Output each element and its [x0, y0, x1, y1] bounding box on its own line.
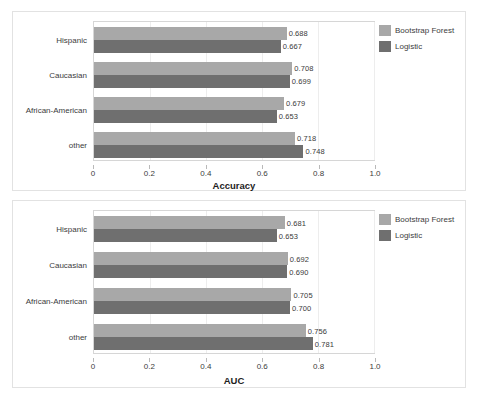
legend-swatch-logistic: [379, 230, 391, 241]
bar-value-label: 0.681: [287, 218, 306, 227]
bar-logistic[interactable]: 0.690: [94, 265, 287, 278]
bar-bootstrap-forest[interactable]: 0.688: [94, 27, 287, 40]
y-axis-label: African-American: [26, 297, 87, 306]
bar-groups-auc: 0.6810.6530.6920.6900.7050.7000.7560.781: [94, 211, 374, 353]
y-axis-label: Caucasian: [49, 70, 87, 79]
x-axis-tick-label: 1.0: [369, 362, 380, 371]
legend-item-bootstrap-forest: Bootstrap Forest: [379, 213, 471, 225]
x-axis-tick-label: 0: [91, 362, 95, 371]
y-axis-label: Hispanic: [56, 35, 87, 44]
bar-value-label: 0.653: [279, 231, 298, 240]
y-axis-label: Hispanic: [56, 225, 87, 234]
bar-group: 0.7050.700: [94, 288, 374, 314]
bar-group: 0.7560.781: [94, 324, 374, 350]
bar-group: 0.7180.748: [94, 132, 374, 158]
bar-value-label: 0.667: [283, 42, 302, 51]
figure-canvas: HispanicCaucasianAfrican-Americanother 0…: [0, 0, 478, 398]
x-axis-tick-label: 0.6: [257, 169, 268, 178]
bar-value-label: 0.679: [286, 99, 305, 108]
x-axis-tick-label: 0.8: [313, 169, 324, 178]
gridline: [374, 211, 375, 353]
bar-value-label: 0.756: [308, 326, 327, 335]
bar-value-label: 0.690: [289, 267, 308, 276]
plot-frame-auc: 0.6810.6530.6920.6900.7050.7000.7560.781: [93, 210, 375, 354]
bar-bootstrap-forest[interactable]: 0.705: [94, 288, 291, 301]
bar-value-label: 0.708: [294, 64, 313, 73]
bar-group: 0.6790.653: [94, 97, 374, 123]
x-axis-tick-label: 0.4: [200, 169, 211, 178]
x-axis-tick-label: 0.2: [144, 362, 155, 371]
bar-value-label: 0.688: [289, 29, 308, 38]
legend-label-logistic: Logistic: [395, 231, 422, 240]
plot-frame-accuracy: 0.6880.6670.7080.6990.6790.6530.7180.748: [93, 21, 375, 161]
x-axis-tick-label: 0.4: [200, 362, 211, 371]
bar-logistic[interactable]: 0.653: [94, 110, 277, 123]
bar-logistic[interactable]: 0.667: [94, 40, 281, 53]
bar-bootstrap-forest[interactable]: 0.708: [94, 62, 292, 75]
legend-label-bootstrap-forest: Bootstrap Forest: [395, 215, 454, 224]
bar-logistic[interactable]: 0.781: [94, 337, 313, 350]
plot-wrap-accuracy: HispanicCaucasianAfrican-Americanother 0…: [13, 12, 465, 190]
bar-value-label: 0.700: [292, 303, 311, 312]
bar-logistic[interactable]: 0.653: [94, 229, 277, 242]
bar-bootstrap-forest[interactable]: 0.679: [94, 97, 284, 110]
legend-swatch-logistic: [379, 41, 391, 52]
legend-label-bootstrap-forest: Bootstrap Forest: [395, 26, 454, 35]
y-axis-label: other: [69, 333, 87, 342]
bar-logistic[interactable]: 0.748: [94, 145, 303, 158]
bar-value-label: 0.692: [290, 254, 309, 263]
bar-bootstrap-forest[interactable]: 0.756: [94, 324, 306, 337]
plot-wrap-auc: HispanicCaucasianAfrican-Americanother 0…: [13, 201, 465, 387]
x-axis-tick-label: 0: [91, 169, 95, 178]
bar-value-label: 0.705: [293, 290, 312, 299]
legend-auc: Bootstrap Forest Logistic: [379, 213, 471, 245]
legend-item-logistic: Logistic: [379, 229, 471, 241]
bar-groups-accuracy: 0.6880.6670.7080.6990.6790.6530.7180.748: [94, 22, 374, 160]
y-axis-label: Caucasian: [49, 261, 87, 270]
bar-value-label: 0.748: [305, 147, 324, 156]
bar-group: 0.7080.699: [94, 62, 374, 88]
bar-logistic[interactable]: 0.699: [94, 75, 290, 88]
y-axis-label: African-American: [26, 105, 87, 114]
x-axis-tick-label: 0.6: [257, 362, 268, 371]
x-axis-auc: 00.20.40.60.81.0: [93, 355, 375, 375]
legend-item-logistic: Logistic: [379, 40, 471, 52]
bar-bootstrap-forest[interactable]: 0.718: [94, 132, 295, 145]
legend-item-bootstrap-forest: Bootstrap Forest: [379, 24, 471, 36]
bar-group: 0.6810.653: [94, 216, 374, 242]
x-axis-accuracy: 00.20.40.60.81.0: [93, 162, 375, 182]
bar-group: 0.6880.667: [94, 27, 374, 53]
gridline: [374, 22, 375, 160]
bar-bootstrap-forest[interactable]: 0.681: [94, 216, 285, 229]
bar-value-label: 0.653: [279, 112, 298, 121]
bar-logistic[interactable]: 0.700: [94, 301, 290, 314]
x-axis-tick-label: 1.0: [369, 169, 380, 178]
legend-accuracy: Bootstrap Forest Logistic: [379, 24, 471, 56]
x-axis-tick-label: 0.8: [313, 362, 324, 371]
bar-value-label: 0.781: [315, 339, 334, 348]
bar-bootstrap-forest[interactable]: 0.692: [94, 252, 288, 265]
chart-panel-accuracy: HispanicCaucasianAfrican-Americanother 0…: [12, 11, 466, 191]
x-axis-title-accuracy: Accuracy: [93, 180, 375, 191]
x-axis-title-auc: AUC: [93, 375, 375, 386]
y-axis-label: other: [69, 140, 87, 149]
bar-value-label: 0.699: [292, 77, 311, 86]
chart-panel-auc: HispanicCaucasianAfrican-Americanother 0…: [12, 200, 466, 388]
bar-group: 0.6920.690: [94, 252, 374, 278]
legend-swatch-bootstrap-forest: [379, 214, 391, 225]
bar-value-label: 0.718: [297, 134, 316, 143]
legend-label-logistic: Logistic: [395, 42, 422, 51]
x-axis-tick-label: 0.2: [144, 169, 155, 178]
legend-swatch-bootstrap-forest: [379, 25, 391, 36]
